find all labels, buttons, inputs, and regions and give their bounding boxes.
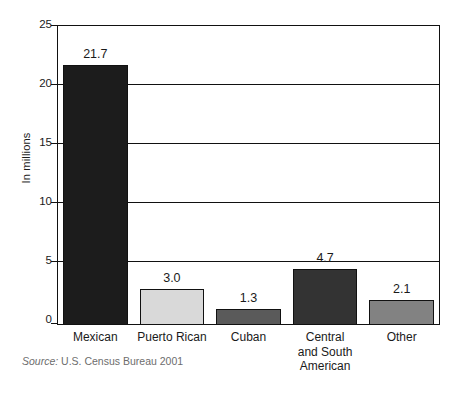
source-prefix: Source: bbox=[22, 355, 58, 367]
y-tick-label-20: 20 bbox=[16, 78, 52, 90]
bars-layer: 21.7 3.0 1.3 4.7 2.1 bbox=[57, 25, 440, 325]
bar-value-other: 2.1 bbox=[369, 283, 434, 296]
bar-value-central-and-south-american: 4.7 bbox=[293, 252, 358, 265]
bar-puerto-rican[interactable] bbox=[140, 289, 205, 325]
y-tick-label-25: 25 bbox=[16, 19, 52, 31]
bar-central-and-south-american[interactable] bbox=[293, 269, 358, 325]
source-text: U.S. Census Bureau 2001 bbox=[61, 355, 183, 367]
bar-other[interactable] bbox=[369, 300, 434, 325]
bar-value-mexican: 21.7 bbox=[63, 48, 128, 61]
y-tick-label-5: 5 bbox=[16, 255, 52, 267]
y-tick-label-0: 0 bbox=[16, 314, 52, 326]
y-tick-label-15: 15 bbox=[16, 137, 52, 149]
bar-chart-figure: In millions 25 20 15 10 5 0 21.7 3.0 1.3… bbox=[0, 0, 463, 394]
x-label-other: Other bbox=[355, 330, 448, 345]
bar-mexican[interactable] bbox=[63, 65, 128, 325]
y-tick-label-10: 10 bbox=[16, 196, 52, 208]
bar-value-cuban: 1.3 bbox=[216, 292, 281, 305]
bar-value-puerto-rican: 3.0 bbox=[140, 272, 205, 285]
bar-cuban[interactable] bbox=[216, 309, 281, 325]
y-axis-tick-labels: 25 20 15 10 5 0 bbox=[14, 0, 52, 394]
source-note: Source: U.S. Census Bureau 2001 bbox=[22, 355, 183, 367]
